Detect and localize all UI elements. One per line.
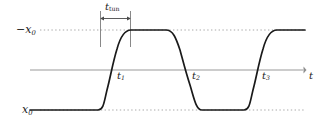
tunneling-time-label: ttun [105, 2, 120, 13]
t3-tick-label: t3 [262, 71, 270, 82]
time-axis-arrowhead [304, 67, 307, 74]
t1-tick-label: t1 [117, 71, 125, 82]
t-tun-measure-bar [100, 11, 131, 47]
tunneling-oscillation-figure: −x0 x0 ttun t1 t2 t3 t [0, 0, 325, 123]
time-axis-label: t [309, 71, 313, 81]
figure-canvas [0, 0, 325, 123]
lower-level-label: x0 [22, 104, 33, 116]
upper-level-label: −x0 [16, 24, 36, 36]
t2-tick-label: t2 [192, 71, 200, 82]
